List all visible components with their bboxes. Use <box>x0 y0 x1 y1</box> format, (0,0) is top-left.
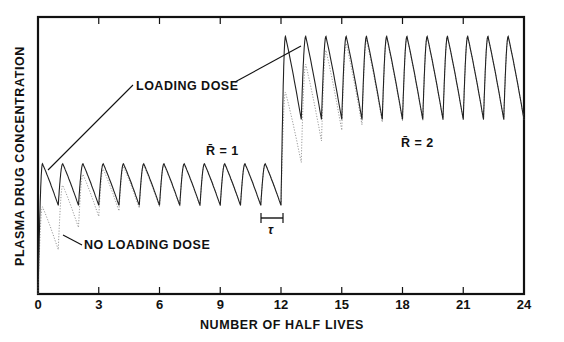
no-loading-dose-label: NO LOADING DOSE <box>84 238 210 252</box>
pharmacokinetics-chart: 03691215182124 τ LOADING DOSE NO LOADING… <box>0 0 564 342</box>
no-loading-dose-leader <box>63 235 82 245</box>
x-tick-label: 6 <box>156 297 163 312</box>
x-tick-label: 9 <box>217 297 224 312</box>
y-axis-title: PLASMA DRUG CONCENTRATION <box>13 46 27 266</box>
x-tick-label: 12 <box>274 297 288 312</box>
x-tick-label: 24 <box>517 297 532 312</box>
x-tick-label: 3 <box>95 297 102 312</box>
x-tick-label: 0 <box>34 297 41 312</box>
loading-dose-leader-1 <box>48 85 133 170</box>
x-tick-label: 18 <box>395 297 409 312</box>
x-axis-tick-labels: 03691215182124 <box>34 297 532 312</box>
tau-label: τ <box>268 223 274 237</box>
loading-dose-label: LOADING DOSE <box>136 79 239 93</box>
x-axis-title: NUMBER OF HALF LIVES <box>200 318 364 332</box>
plot-frame <box>38 17 524 294</box>
r-bar-2-label: R̄ = 2 <box>401 136 434 150</box>
no-loading-dose-curve <box>38 36 524 294</box>
x-tick-label: 21 <box>456 297 470 312</box>
x-axis-ticks <box>99 17 464 294</box>
tau-interval-marker <box>261 213 283 223</box>
x-tick-label: 15 <box>335 297 349 312</box>
r-bar-1-label: R̄ = 1 <box>206 144 239 158</box>
loading-dose-curve <box>38 36 524 294</box>
